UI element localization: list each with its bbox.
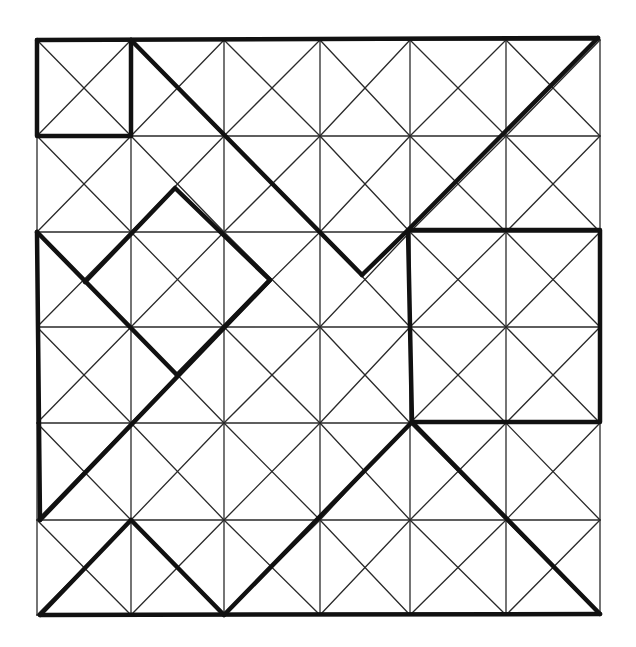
bold-bottom-edge — [40, 614, 600, 615]
bold-top-edge — [37, 38, 598, 40]
bold-left-edge — [37, 232, 40, 520]
grid-puzzle-diagram — [0, 0, 636, 647]
